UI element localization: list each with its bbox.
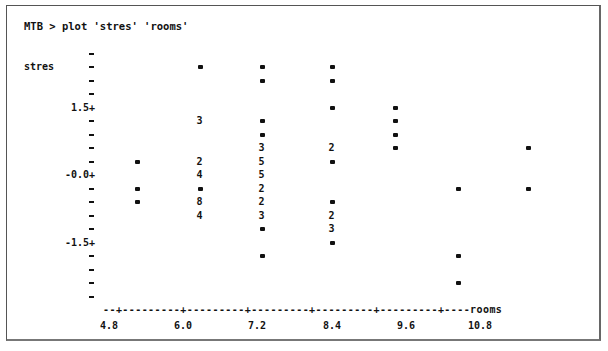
y-tick-dash: [89, 147, 94, 149]
terminal-window-frame: [6, 5, 601, 341]
data-point: [135, 160, 140, 164]
x-tick-label: 4.8: [100, 320, 118, 332]
data-point: [198, 65, 203, 69]
y-tick-dash: [89, 201, 94, 203]
x-tick-label: 7.2: [248, 320, 266, 332]
data-point-count: 3: [329, 224, 335, 234]
x-tick-label: 10.8: [468, 320, 492, 332]
data-point: [393, 106, 398, 110]
data-point: [260, 119, 265, 123]
data-point: [393, 133, 398, 137]
data-point: [260, 254, 265, 258]
data-point: [330, 65, 335, 69]
data-point: [330, 200, 335, 204]
y-tick-label: 1.5+: [25, 102, 95, 114]
data-point: [526, 146, 531, 150]
data-point-count: 3: [259, 143, 265, 153]
data-point-count: 3: [259, 211, 265, 221]
data-point-count: 2: [259, 184, 265, 194]
x-axis-rule: --+---------+---------+---------+-------…: [103, 304, 470, 315]
data-point-count: 4: [197, 211, 203, 221]
data-point: [456, 187, 461, 191]
data-point-count: 2: [259, 197, 265, 207]
data-point-count: 5: [259, 157, 265, 167]
data-point: [135, 200, 140, 204]
data-point: [330, 241, 335, 245]
data-point: [393, 119, 398, 123]
y-tick-label: -1.5+: [25, 237, 95, 249]
data-point-count: 4: [197, 170, 203, 180]
data-point: [135, 187, 140, 191]
data-point: [330, 79, 335, 83]
y-tick-dash: [89, 161, 94, 163]
data-point-count: 2: [197, 157, 203, 167]
data-point: [260, 133, 265, 137]
y-tick-dash: [89, 269, 94, 271]
y-tick-dash: [89, 215, 94, 217]
y-tick-dash: [89, 296, 94, 298]
y-tick-dash: [89, 80, 94, 82]
y-tick-dash: [89, 282, 94, 284]
y-axis-label: stres: [24, 61, 54, 73]
command-line: MTB > plot 'stres' 'rooms': [24, 20, 188, 32]
data-point-count: 2: [329, 211, 335, 221]
data-point: [393, 146, 398, 150]
y-tick-dash: [89, 255, 94, 257]
y-tick-dash: [89, 66, 94, 68]
data-point: [260, 79, 265, 83]
y-tick-dash: [89, 53, 94, 55]
y-tick-dash: [89, 188, 94, 190]
data-point-count: 5: [259, 170, 265, 180]
data-point: [260, 65, 265, 69]
data-point: [330, 160, 335, 164]
data-point-count: 2: [329, 143, 335, 153]
data-point: [198, 187, 203, 191]
data-point-count: 8: [197, 197, 203, 207]
data-point: [526, 187, 531, 191]
data-point: [330, 106, 335, 110]
x-tick-label: 6.0: [174, 320, 192, 332]
data-point: [456, 281, 461, 285]
y-tick-dash: [89, 134, 94, 136]
x-axis-line: --+---------+---------+---------+-------…: [103, 304, 502, 316]
x-tick-label: 9.6: [397, 320, 415, 332]
x-axis-label: rooms: [470, 304, 502, 315]
y-tick-dash: [89, 120, 94, 122]
y-tick-dash: [89, 93, 94, 95]
y-tick-dash: [89, 228, 94, 230]
data-point: [456, 254, 461, 258]
y-tick-label: -0.0+: [25, 169, 95, 181]
data-point: [260, 227, 265, 231]
x-tick-label: 8.4: [323, 320, 341, 332]
data-point-count: 3: [197, 116, 203, 126]
